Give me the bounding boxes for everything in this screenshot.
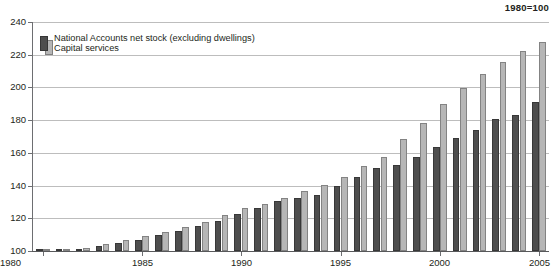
bar-net-stock-2005 [539,42,546,251]
chart-container: 1980=100 National Accounts net stock (ex… [0,0,555,271]
bar-net-stock-1981 [63,249,70,251]
x-tick-mark-2000 [440,252,441,256]
x-tick-mark-1985 [142,252,143,256]
bar-capital-services-1998 [393,165,400,251]
bar-capital-services-1982 [76,249,83,251]
y-tick-label-200: 200 [0,82,26,92]
bar-net-stock-1990 [242,208,249,251]
bar-net-stock-1999 [420,123,427,251]
bar-net-stock-1988 [202,222,209,251]
y-tick-mark-180 [28,120,32,121]
bar-capital-services-1987 [175,231,182,251]
bar-capital-services-2003 [492,119,499,251]
bar-net-stock-2004 [520,51,527,251]
bar-net-stock-2000 [440,104,447,251]
bar-net-stock-1995 [341,177,348,251]
bar-capital-services-1981 [56,249,63,251]
bar-capital-services-1993 [294,198,301,251]
bar-capital-services-1986 [155,235,162,251]
x-tick-mark-1995 [341,252,342,256]
bar-capital-services-2001 [453,138,460,251]
bar-net-stock-1991 [262,204,269,251]
bar-net-stock-1989 [222,215,229,251]
chart-title: 1980=100 [505,2,549,13]
bar-net-stock-2002 [480,74,487,251]
y-tick-label-240: 240 [0,17,26,27]
bar-net-stock-1992 [281,198,288,251]
bar-capital-services-1997 [373,168,380,251]
x-tick-mark-2005 [539,252,540,256]
bar-capital-services-1991 [254,208,261,251]
bar-capital-services-1988 [195,226,202,251]
bar-capital-services-1992 [274,201,281,251]
bar-net-stock-1980 [43,249,50,251]
bar-net-stock-2001 [460,88,467,251]
bar-capital-services-2004 [512,115,519,251]
bar-capital-services-1995 [334,186,341,251]
y-tick-mark-160 [28,153,32,154]
bar-capital-services-1980 [36,249,43,251]
bar-net-stock-1994 [321,185,328,251]
x-tick-label-1980: 1980 [0,257,21,268]
bar-net-stock-1998 [400,139,407,251]
bar-capital-services-2000 [433,147,440,251]
bar-net-stock-1982 [83,248,90,251]
x-tick-label-1985: 1985 [132,257,153,268]
bar-capital-services-1985 [135,240,142,251]
bar-series-area [33,22,549,251]
bar-capital-services-1999 [413,157,420,251]
bar-net-stock-1997 [381,157,388,251]
bar-capital-services-2002 [473,130,480,251]
y-tick-label-140: 140 [0,181,26,191]
bar-net-stock-1993 [301,191,308,251]
x-axis-line [32,251,549,252]
y-tick-label-220: 220 [0,50,26,60]
y-tick-label-100: 100 [0,246,26,256]
bar-capital-services-1989 [215,221,222,251]
bar-net-stock-1984 [123,240,130,251]
x-tick-mark-1980 [43,252,44,256]
bar-net-stock-1986 [162,232,169,251]
y-tick-label-180: 180 [0,115,26,125]
y-tick-mark-200 [28,87,32,88]
bar-capital-services-1990 [234,214,241,251]
y-tick-mark-140 [28,186,32,187]
y-tick-label-160: 160 [0,148,26,158]
x-tick-label-2000: 2000 [429,257,450,268]
bar-capital-services-1994 [314,195,321,251]
y-tick-mark-220 [28,55,32,56]
x-tick-mark-1990 [241,252,242,256]
x-tick-label-1995: 1995 [330,257,351,268]
bar-net-stock-1996 [361,166,368,251]
y-tick-mark-120 [28,218,32,219]
bar-capital-services-2005 [532,102,539,251]
legend-swatch-capital-services [40,36,48,51]
x-tick-label-2005: 2005 [529,257,550,268]
bar-net-stock-2003 [500,62,507,251]
bar-capital-services-1996 [354,177,361,251]
bar-capital-services-1984 [115,243,122,251]
x-tick-label-1990: 1990 [231,257,252,268]
bar-net-stock-1987 [182,227,189,251]
bar-net-stock-1983 [103,244,110,251]
bar-net-stock-1985 [142,236,149,251]
bar-capital-services-1983 [96,246,103,251]
y-tick-label-120: 120 [0,213,26,223]
y-tick-mark-240 [28,22,32,23]
legend-label-capital-services: Capital services [54,43,119,54]
y-tick-mark-100 [28,251,32,252]
